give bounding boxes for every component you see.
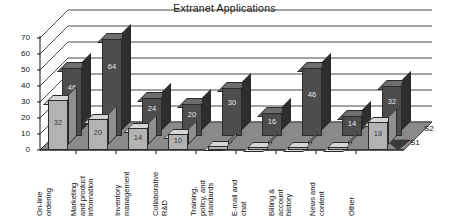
x-category-label: Marketing and product information: [70, 176, 96, 216]
y-tick-label: 60: [8, 49, 30, 58]
bar-s1-1: 20: [88, 0, 108, 150]
x-category-label: Collaborative R&D: [152, 172, 169, 216]
y-tick-label: 0: [8, 145, 30, 154]
x-category-label: Inventory management: [114, 172, 131, 216]
x-category-label: Other: [348, 197, 357, 216]
bar-value-label: 18: [368, 129, 388, 138]
x-category-label: Billing & account history: [268, 189, 294, 216]
y-tick-label: 20: [8, 113, 30, 122]
x-category-label: News and content: [309, 182, 326, 216]
y-tick-label: 40: [8, 81, 30, 90]
bar-s1-4: [208, 0, 228, 150]
x-category-label: E-mail and chat: [231, 180, 248, 216]
bar-value-label: 32: [48, 118, 68, 127]
bar-s1-0: 32: [48, 0, 68, 150]
chart-container: Extranet Applications: [0, 0, 449, 222]
bar-s1-5: [248, 0, 268, 150]
bar-value-label: 14: [128, 133, 148, 142]
bar-value-label: 20: [88, 128, 108, 137]
y-tick-label: 30: [8, 97, 30, 106]
bar-s1-2: 14: [128, 0, 148, 150]
bar-s1-8: 18: [368, 0, 388, 150]
x-category-label: Training, policy, and standards: [190, 180, 216, 216]
y-tick-label: 50: [8, 65, 30, 74]
bar-s1-3: 10: [168, 0, 188, 150]
bar-s1-7: [328, 0, 348, 150]
legend-item-s1[interactable]: S1: [410, 138, 420, 147]
bar-value-label: 10: [168, 136, 188, 145]
bar-s1-6: [288, 0, 308, 150]
legend-item-s2[interactable]: S2: [424, 124, 434, 133]
plot-area: 70 60 50 40 30 20 10 0 46 32 64: [0, 0, 449, 222]
y-tick-label: 70: [8, 33, 30, 42]
y-tick-label: 10: [8, 129, 30, 138]
x-category-label: On-line ordering: [36, 188, 53, 216]
